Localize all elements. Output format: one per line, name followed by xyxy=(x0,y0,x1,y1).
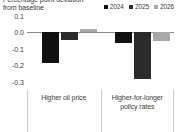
bar-higher-oil-price-2025 xyxy=(61,32,78,39)
legend-item-2025: 2025 xyxy=(129,3,149,10)
legend-label-2024: 2024 xyxy=(110,3,124,10)
category-label-0: Higher oil price xyxy=(33,94,95,132)
bar-higher-oil-price-2026 xyxy=(80,29,97,32)
chart-legend: 2024 2025 2026 xyxy=(104,3,174,10)
category-separator-middle xyxy=(101,90,102,132)
legend-swatch-2026 xyxy=(154,5,158,9)
legend-swatch-2024 xyxy=(104,5,108,9)
legend-swatch-2025 xyxy=(129,5,133,9)
chart-title-line-2: from baseline xyxy=(3,4,113,12)
y-tick-label-4: -0.3 xyxy=(12,78,24,85)
y-tick-label-1: 0.0 xyxy=(14,29,24,36)
category-separator-left xyxy=(27,90,28,132)
bar-group-1 xyxy=(101,16,175,90)
legend-label-2025: 2025 xyxy=(135,3,149,10)
y-tick-label-3: -0.2 xyxy=(12,62,24,69)
bar-higher-for-longer-policy-rates-2026 xyxy=(153,32,170,41)
bars-1 xyxy=(101,16,175,90)
bar-higher-for-longer-policy-rates-2024 xyxy=(115,32,132,43)
category-higher-oil-price: Higher oil price xyxy=(27,90,101,132)
bar-group-0 xyxy=(27,16,101,90)
category-label-0-line-1: Higher oil price xyxy=(41,94,86,101)
category-label-1: Higher-for-longer policy rates xyxy=(106,94,168,132)
legend-label-2026: 2026 xyxy=(160,3,174,10)
plot-area: 0.10.0-0.1-0.2-0.3 xyxy=(27,16,174,90)
bar-higher-oil-price-2024 xyxy=(42,32,59,62)
legend-item-2026: 2026 xyxy=(154,3,174,10)
bars-0 xyxy=(27,16,101,90)
category-higher-for-longer-policy-rates: Higher-for-longer policy rates xyxy=(101,90,175,132)
bar-higher-for-longer-policy-rates-2025 xyxy=(134,32,151,79)
category-label-1-line-1: Higher-for-longer xyxy=(112,94,163,101)
category-separator-right xyxy=(173,90,174,132)
bar-groups xyxy=(27,16,174,90)
legend-item-2024: 2024 xyxy=(104,3,124,10)
chart-figure: Percentage point deviation from baseline… xyxy=(0,0,176,132)
chart-title: Percentage point deviation from baseline xyxy=(3,0,113,12)
y-tick-label-2: -0.1 xyxy=(12,45,24,52)
category-axis: Higher oil price Higher-for-longer polic… xyxy=(27,90,174,132)
y-tick-label-0: 0.1 xyxy=(14,13,24,20)
category-label-1-line-2: policy rates xyxy=(120,103,154,110)
